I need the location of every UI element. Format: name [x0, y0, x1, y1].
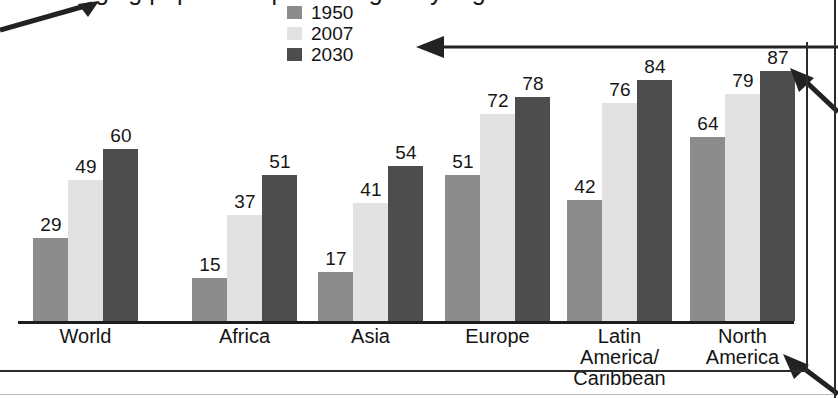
bar-rect[interactable]: [68, 180, 103, 321]
bar-rect[interactable]: [760, 71, 795, 321]
bar-rect[interactable]: [567, 200, 602, 321]
bar-value-label: 84: [627, 57, 683, 76]
bar-group-bars: 294960: [33, 21, 138, 321]
page-frame-right-inner: [806, 42, 808, 372]
bar-rect[interactable]: [227, 215, 262, 321]
page-frame-right-outer: [834, 0, 836, 398]
bar-rect[interactable]: [318, 272, 353, 321]
page-frame-bottom-rule: [0, 370, 808, 372]
bar-group-bars: 153751: [192, 21, 297, 321]
page-frame-bottom-edge: [0, 394, 834, 395]
bar-rect[interactable]: [33, 238, 68, 321]
bar-value-label: 54: [378, 143, 434, 162]
bar-2030[interactable]: 84: [637, 21, 672, 321]
bar-1950[interactable]: 17: [318, 21, 353, 321]
chart-plot-area: 294960153751174154517278427684647987 Wor…: [0, 0, 806, 324]
bar-rect[interactable]: [353, 203, 388, 321]
bar-2030[interactable]: 54: [388, 21, 423, 321]
bar-1950[interactable]: 51: [445, 21, 480, 321]
bar-rect[interactable]: [192, 278, 227, 321]
bar-2007[interactable]: 41: [353, 21, 388, 321]
bar-group-bars: 647987: [690, 21, 795, 321]
bar-1950[interactable]: 15: [192, 21, 227, 321]
scanned-chart-page: ging population percentages by region 19…: [0, 0, 838, 398]
bar-rect[interactable]: [725, 94, 760, 321]
bar-2030[interactable]: 60: [103, 21, 138, 321]
bar-1950[interactable]: 42: [567, 21, 602, 321]
x-axis-label-world: World: [11, 326, 161, 347]
bar-value-label: 87: [750, 48, 806, 67]
bar-rect[interactable]: [690, 137, 725, 321]
bar-2030[interactable]: 87: [760, 21, 795, 321]
x-axis-baseline: [18, 321, 794, 324]
bar-rect[interactable]: [103, 149, 138, 321]
bar-value-label: 78: [505, 74, 561, 93]
bar-2030[interactable]: 51: [262, 21, 297, 321]
bar-group-bars: 174154: [318, 21, 423, 321]
bar-group-bars: 517278: [445, 21, 550, 321]
bar-rect[interactable]: [515, 97, 550, 321]
bar-1950[interactable]: 64: [690, 21, 725, 321]
bar-rect[interactable]: [602, 103, 637, 321]
bar-rect[interactable]: [637, 80, 672, 321]
bar-group-bars: 427684: [567, 21, 672, 321]
bar-2030[interactable]: 78: [515, 21, 550, 321]
x-axis-label-north-america: NorthAmerica: [668, 326, 818, 368]
bar-2007[interactable]: 37: [227, 21, 262, 321]
bar-2007[interactable]: 49: [68, 21, 103, 321]
bar-rect[interactable]: [445, 175, 480, 321]
bar-value-label: 51: [252, 152, 308, 171]
x-axis-label-line: America: [668, 347, 818, 368]
x-axis-label-line: World: [11, 326, 161, 347]
x-axis-label-line: North: [668, 326, 818, 347]
bar-2007[interactable]: 72: [480, 21, 515, 321]
bar-rect[interactable]: [480, 114, 515, 321]
bar-value-label: 60: [93, 126, 149, 145]
bar-rect[interactable]: [262, 175, 297, 321]
bar-rect[interactable]: [388, 166, 423, 321]
